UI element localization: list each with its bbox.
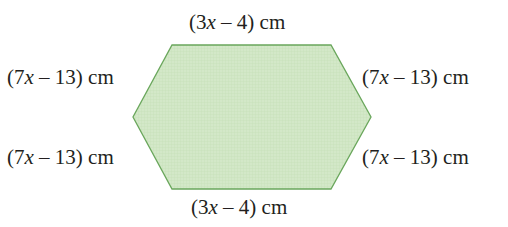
label-text: – 4) cm <box>218 195 287 219</box>
label-top-side: (3x – 4) cm <box>189 12 285 33</box>
label-text: (3 <box>191 195 209 219</box>
label-text: – 13) cm <box>389 145 469 169</box>
label-text: (7 <box>362 145 380 169</box>
label-bottom-side: (3x – 4) cm <box>191 197 287 218</box>
label-text: (7 <box>7 145 25 169</box>
label-text: – 13) cm <box>34 145 114 169</box>
label-lower-left-side: (7x – 13) cm <box>7 147 114 168</box>
variable-x: x <box>25 145 34 169</box>
variable-x: x <box>25 65 34 89</box>
hexagon-shape <box>0 0 508 227</box>
variable-x: x <box>380 145 389 169</box>
label-text: – 13) cm <box>34 65 114 89</box>
label-text: (3 <box>189 10 207 34</box>
label-upper-right-side: (7x – 13) cm <box>362 67 469 88</box>
variable-x: x <box>207 10 216 34</box>
variable-x: x <box>380 65 389 89</box>
label-lower-right-side: (7x – 13) cm <box>362 147 469 168</box>
hexagon-diagram: (3x – 4) cm (7x – 13) cm (7x – 13) cm (7… <box>0 0 508 227</box>
label-text: (7 <box>7 65 25 89</box>
variable-x: x <box>209 195 218 219</box>
label-text: (7 <box>362 65 380 89</box>
label-upper-left-side: (7x – 13) cm <box>7 67 114 88</box>
label-text: – 13) cm <box>389 65 469 89</box>
label-text: – 4) cm <box>216 10 285 34</box>
